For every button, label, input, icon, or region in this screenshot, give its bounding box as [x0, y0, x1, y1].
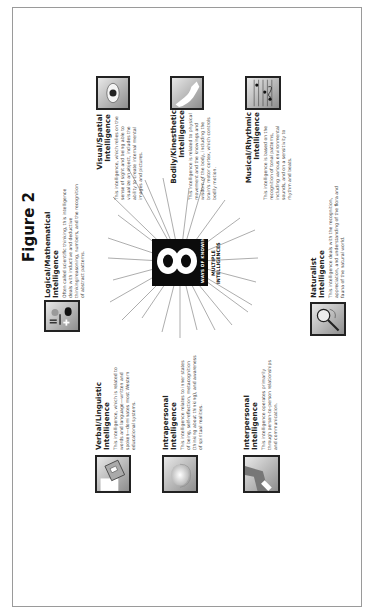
magnifying-glass-icon: [312, 304, 344, 334]
interpersonal-title-line2: Intelligence: [251, 355, 259, 450]
bodily-title: Bodily/Kinesthetic Intelligence: [170, 110, 187, 200]
bodily-title-line2: Intelligence: [178, 110, 186, 200]
musical-title: Musical/Rhythmic Intelligence: [245, 112, 262, 200]
book-icon: [97, 457, 129, 491]
visual-icon: [96, 76, 130, 110]
naturalist-icon: [310, 302, 346, 336]
interpersonal-title: Interpersonal Intelligence: [243, 355, 260, 450]
verbal-title: Verbal/Linguistic Intelligence: [95, 355, 112, 450]
bodily-block: Bodily/Kinesthetic Intelligence This int…: [170, 110, 218, 200]
handshake-icon: [245, 457, 278, 491]
intrapersonal-description: This intelligence relates to inner state…: [180, 355, 204, 450]
verbal-description: This intelligence, which is related to w…: [113, 355, 137, 450]
center-caption: WAYS OF KNOWING: [200, 234, 205, 283]
music-notes-icon: [247, 78, 279, 108]
interpersonal-icon: [243, 455, 280, 493]
visual-title: Visual/Spatial Intelligence: [96, 114, 113, 200]
center-label: MULTIPLE INTELLIGENCES: [211, 242, 221, 284]
intrapersonal-title: Intrapersonal Intelligence: [162, 355, 179, 450]
naturalist-block: Naturalist Intelligence This intelligenc…: [310, 180, 346, 298]
naturalist-title: Naturalist Intelligence: [310, 180, 327, 298]
musical-description: This intelligence is based on the recogn…: [263, 112, 293, 200]
verbal-icon: [95, 455, 131, 493]
head-silhouette-icon: [164, 457, 196, 491]
logical-icon: [44, 300, 80, 332]
musical-block: Musical/Rhythmic Intelligence This intel…: [245, 112, 293, 200]
musical-title-line2: Intelligence: [253, 112, 261, 200]
logical-block: Logical/Mathematical Intelligence Often …: [44, 180, 86, 298]
visual-block: Visual/Spatial Intelligence This intelli…: [96, 114, 144, 200]
interpersonal-block: Interpersonal Intelligence This intellig…: [243, 355, 279, 450]
intrapersonal-title-line2: Intelligence: [170, 355, 178, 450]
logical-title-line2: Intelligence: [52, 180, 60, 298]
musical-icon: [245, 76, 281, 110]
bodily-description: This intelligence is related to physical…: [188, 110, 218, 200]
intrapersonal-icon: [162, 455, 198, 493]
figure-title: Figure 2: [20, 192, 38, 262]
math-symbols-icon: [46, 302, 78, 330]
center-eight-box: WAYS OF KNOWING: [152, 239, 208, 286]
flexed-arm-icon: [172, 78, 202, 108]
interpersonal-description: This intelligence operates primarily thr…: [261, 355, 279, 450]
center-label-line2: INTELLIGENCES: [216, 242, 221, 284]
verbal-title-line2: Intelligence: [103, 355, 111, 450]
bodily-icon: [170, 76, 204, 110]
visual-description: This intelligence, which relies on the s…: [114, 114, 144, 200]
logical-description: Often called scientific thinking, this i…: [62, 180, 86, 298]
eye-icon: [98, 78, 128, 108]
naturalist-title-line2: Intelligence: [318, 180, 326, 298]
logical-title: Logical/Mathematical Intelligence: [44, 180, 61, 298]
naturalist-description: This intelligence deals with the recogni…: [328, 180, 346, 298]
intrapersonal-block: Intrapersonal Intelligence This intellig…: [162, 355, 204, 450]
verbal-block: Verbal/Linguistic Intelligence This inte…: [95, 355, 137, 450]
visual-title-line2: Intelligence: [104, 114, 112, 200]
